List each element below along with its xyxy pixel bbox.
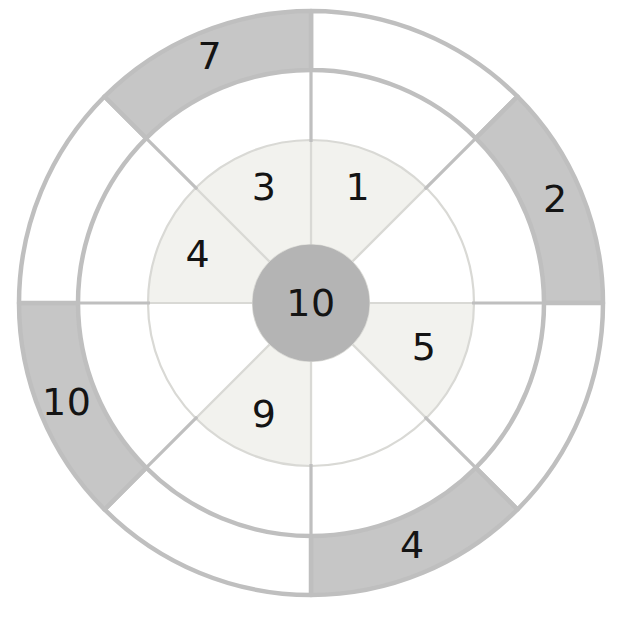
inner-ring-label-4: 9 [252, 392, 277, 436]
hub-label: 10 [286, 281, 335, 325]
outer-ring-sector-2[interactable] [476, 303, 603, 509]
divider-spoke-5 [145, 417, 197, 469]
inner-ring-label-7: 3 [252, 165, 277, 209]
outer-ring-label-1: 2 [543, 177, 568, 221]
wheel-diagram: 241071594310 [0, 0, 626, 617]
divider-spoke-7 [145, 137, 197, 189]
inner-ring-label-0: 1 [346, 165, 371, 209]
outer-ring-sector-4[interactable] [105, 468, 311, 595]
inner-ring-label-6: 4 [185, 232, 210, 276]
divider-spoke-1 [425, 137, 477, 189]
outer-ring-sector-1[interactable] [476, 97, 603, 303]
outer-ring-label-7: 7 [197, 34, 222, 78]
divider-spoke-3 [425, 417, 477, 469]
outer-ring-label-3: 4 [400, 523, 425, 567]
wheel-canvas: 241071594310 [0, 0, 626, 617]
outer-ring-sector-0[interactable] [311, 11, 517, 138]
outer-ring-sector-6[interactable] [19, 97, 146, 303]
outer-ring-label-5: 10 [42, 380, 91, 424]
inner-ring-label-2: 5 [412, 325, 437, 369]
